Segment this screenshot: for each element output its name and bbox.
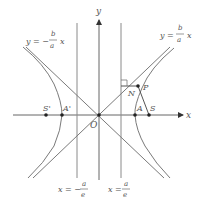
x-axis-label: x — [186, 110, 191, 120]
label-n: N — [127, 89, 136, 98]
label-a-prime: A' — [62, 104, 71, 113]
point-a-prime — [60, 113, 64, 117]
svg-text:x: x — [187, 31, 192, 40]
hyperbola-right-branch — [135, 48, 174, 178]
asymptote-positive-label: y = b a x — [159, 24, 192, 44]
svg-text:y = −: y = − — [25, 37, 49, 46]
svg-text:a: a — [82, 180, 86, 188]
point-s-prime — [44, 113, 48, 117]
svg-text:a: a — [124, 180, 128, 188]
svg-text:b: b — [178, 24, 183, 32]
right-directrix-label: x = a e — [108, 180, 130, 199]
svg-text:x =: x = — [108, 185, 122, 194]
svg-text:b: b — [51, 30, 56, 38]
hyperbola-figure: y x O S' A' A S N P y = − b a x y = b a … — [0, 0, 203, 204]
svg-text:x: x — [60, 37, 65, 46]
y-axis-label: y — [95, 6, 102, 16]
origin-label: O — [90, 120, 98, 130]
svg-text:e: e — [123, 191, 127, 199]
left-directrix-label: x = − a e — [58, 180, 88, 199]
label-s: S — [150, 104, 156, 113]
point-origin — [97, 113, 101, 117]
svg-text:a: a — [50, 42, 54, 50]
svg-text:a: a — [177, 36, 181, 44]
label-a: A — [136, 104, 143, 113]
svg-text:y =: y = — [159, 31, 174, 40]
point-p — [136, 84, 140, 88]
label-s-prime: S' — [43, 104, 51, 113]
label-p: P — [142, 83, 149, 92]
right-angle-mark — [121, 80, 127, 86]
point-a — [133, 113, 137, 117]
asymptote-negative-label: y = − b a x — [25, 30, 65, 50]
svg-text:e: e — [81, 191, 85, 199]
point-s — [147, 113, 151, 117]
svg-text:x = −: x = − — [58, 185, 81, 194]
